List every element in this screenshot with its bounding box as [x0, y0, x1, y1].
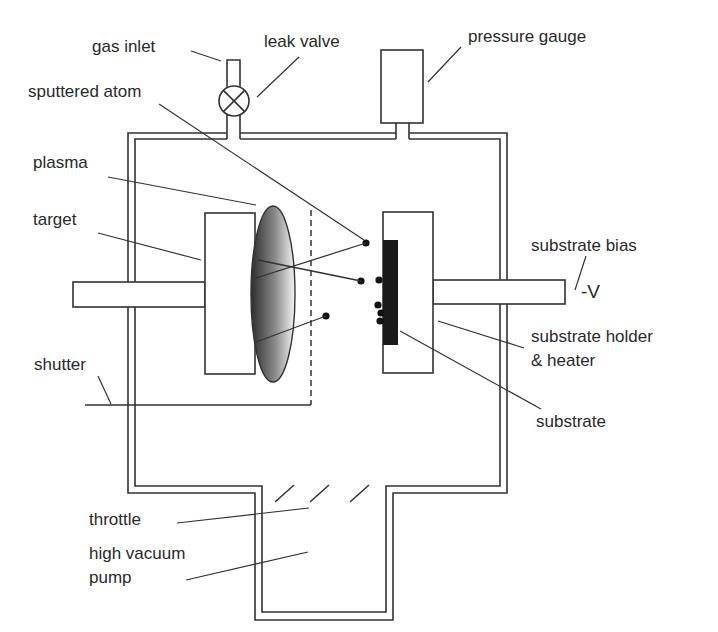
label-sputtered-atom: sputtered atom — [28, 82, 141, 102]
label-throttle: throttle — [89, 510, 141, 530]
label-substrate-holder-line1: substrate holder — [531, 327, 653, 347]
label-substrate-holder-line2: & heater — [531, 351, 653, 371]
label-leak-valve: leak valve — [264, 32, 340, 52]
leader-target — [98, 233, 201, 260]
substrate-holder-arm — [433, 280, 565, 304]
label-substrate-bias: substrate bias — [531, 236, 637, 256]
label-pump-line2: pump — [89, 568, 185, 588]
target-assembly — [73, 213, 255, 374]
chamber-inner-wall — [135, 139, 500, 612]
label-pump-line1: high vacuum — [89, 544, 185, 564]
label-plasma: plasma — [33, 153, 88, 173]
label-shutter: shutter — [34, 355, 86, 375]
leader-substrate-holder — [438, 321, 524, 348]
throttle-vanes — [275, 485, 369, 502]
target-block — [205, 213, 255, 374]
leak-valve-icon — [219, 86, 249, 116]
leader-pressure-gauge — [428, 47, 461, 82]
label-target: target — [33, 210, 76, 230]
label-gas-inlet: gas inlet — [92, 37, 155, 57]
leader-leak-valve — [257, 57, 299, 97]
leader-plasma — [108, 177, 256, 205]
leader-pump — [186, 552, 308, 580]
substrate-wafer — [383, 240, 398, 345]
sputtered-atoms — [322, 239, 384, 324]
leader-lines — [98, 47, 586, 580]
label-bias-voltage: -V — [581, 282, 600, 302]
leader-throttle — [177, 508, 309, 523]
label-pressure-gauge: pressure gauge — [468, 27, 586, 47]
label-pump: high vacuum pump — [89, 544, 185, 588]
plasma-region — [251, 206, 295, 382]
label-substrate: substrate — [536, 412, 606, 432]
label-substrate-holder: substrate holder & heater — [531, 327, 653, 371]
target-feedthrough-arm — [73, 282, 205, 307]
leader-gas-inlet — [191, 51, 221, 61]
pressure-gauge-icon — [381, 50, 423, 139]
leader-shutter — [98, 376, 111, 404]
